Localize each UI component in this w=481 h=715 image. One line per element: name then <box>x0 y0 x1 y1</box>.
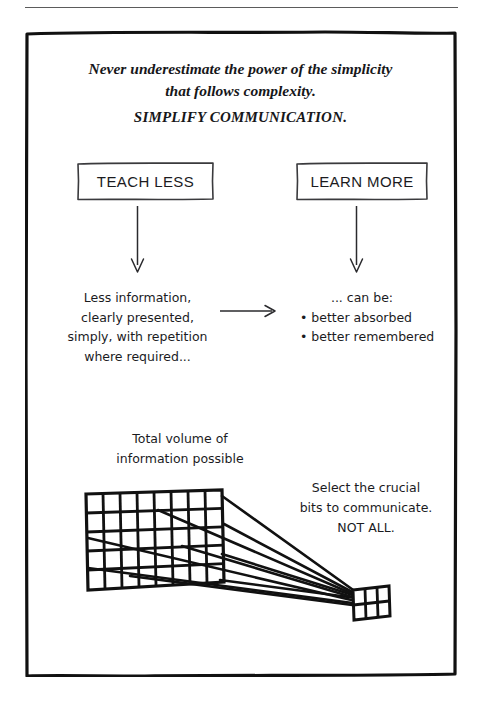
poster-page: Never underestimate the power of the sim… <box>0 0 481 715</box>
total-volume-caption: Total volume of information possible <box>85 429 275 469</box>
less-information-line-1: Less information, <box>50 288 225 308</box>
down-arrow-left-icon <box>118 205 158 279</box>
teach-less-label: TEACH LESS <box>76 161 215 201</box>
less-information-line-4: where required... <box>50 347 225 367</box>
can-be-bullet-list: • better absorbed • better remembered <box>282 308 442 347</box>
down-arrow-right-icon <box>337 205 377 279</box>
headline: Never underestimate the power of the sim… <box>50 58 431 102</box>
can-be-text: ... can be: • better absorbed • better r… <box>282 288 442 347</box>
subheadline: SIMPLIFY COMMUNICATION. <box>50 109 431 126</box>
less-information-text: Less information, clearly presented, sim… <box>50 288 225 366</box>
less-information-line-2: clearly presented, <box>50 308 225 328</box>
top-divider-rule <box>25 7 458 8</box>
teach-less-box[interactable]: TEACH LESS <box>76 161 215 201</box>
can-be-bullet-2: • better remembered <box>300 327 442 347</box>
right-arrow-icon <box>218 300 280 326</box>
can-be-bullet-1: • better absorbed <box>300 308 442 328</box>
large-grid <box>86 490 224 590</box>
can-be-header: ... can be: <box>282 288 442 308</box>
less-information-line-3: simply, with repetition <box>50 327 225 347</box>
learn-more-label: LEARN MORE <box>295 161 429 201</box>
total-volume-line-1: Total volume of <box>85 429 275 449</box>
information-reduction-diagram <box>70 480 410 630</box>
learn-more-box[interactable]: LEARN MORE <box>295 161 429 201</box>
headline-line-2: that follows complexity. <box>50 80 431 102</box>
small-grid <box>353 586 390 620</box>
headline-line-1: Never underestimate the power of the sim… <box>50 58 431 80</box>
total-volume-line-2: information possible <box>85 449 275 469</box>
